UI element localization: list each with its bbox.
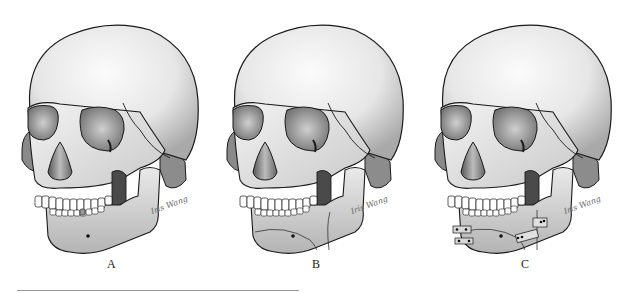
skull-illustration-c: Iris Wang xyxy=(413,0,624,270)
footer-rule xyxy=(17,290,299,291)
panel-label-a: A xyxy=(107,257,116,272)
panel-label-c: C xyxy=(521,257,529,272)
panel-label-b: B xyxy=(312,257,320,272)
figure-panel-b: Iris Wang B xyxy=(205,0,415,270)
figure-panel-a: Iris Wang A xyxy=(0,0,210,270)
skull-illustration-a: Iris Wang xyxy=(0,0,210,270)
figure-panel-c: Iris Wang C xyxy=(413,0,624,270)
skull-illustration-b: Iris Wang xyxy=(205,0,415,270)
